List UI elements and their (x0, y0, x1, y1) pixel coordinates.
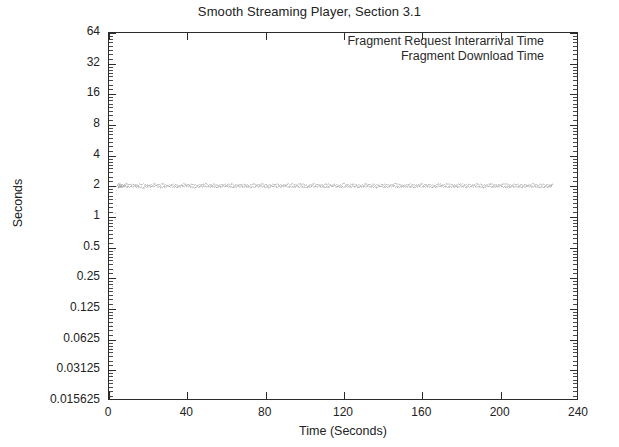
x-axis-tick-label: 200 (480, 405, 520, 419)
y-axis-minor-tick (573, 111, 577, 112)
y-axis-major-tick (570, 370, 577, 371)
y-axis-minor-tick (573, 50, 577, 51)
y-axis-minor-tick (573, 295, 577, 296)
x-axis-major-tick (501, 33, 502, 40)
legend-item-fragment-request-interarrival-time: Fragment Request Interarrival Time (109, 34, 544, 49)
y-axis-minor-tick (109, 199, 113, 200)
y-axis-minor-tick (109, 299, 113, 300)
y-axis-minor-tick (109, 159, 113, 160)
y-axis-minor-tick (573, 120, 577, 121)
y-axis-minor-tick (573, 162, 577, 163)
y-axis-minor-tick (573, 151, 577, 152)
y-axis-minor-tick (573, 97, 577, 98)
y-axis-minor-tick (573, 212, 577, 213)
x-axis-tick-label: 160 (401, 405, 441, 419)
y-axis-minor-tick (573, 318, 577, 319)
legend-item-fragment-download-time: Fragment Download Time (109, 49, 544, 64)
y-axis-minor-tick (573, 54, 577, 55)
y-axis-major-tick (570, 125, 577, 126)
y-axis-major-tick (109, 94, 116, 95)
y-axis-minor-tick (109, 318, 113, 319)
y-axis-minor-tick (109, 288, 113, 289)
y-axis-minor-tick (573, 264, 577, 265)
x-axis-major-tick (109, 392, 110, 399)
y-axis-minor-tick (573, 322, 577, 323)
y-axis-minor-tick (109, 134, 113, 135)
y-axis-minor-tick (109, 226, 113, 227)
y-axis-minor-tick (109, 165, 113, 166)
y-axis-minor-tick (109, 196, 113, 197)
data-point (250, 185, 251, 186)
y-axis-minor-tick (109, 97, 113, 98)
data-point (270, 187, 271, 188)
y-axis-minor-tick (573, 356, 577, 357)
y-axis-minor-tick (109, 54, 113, 55)
chart-title: Smooth Streaming Player, Section 3.1 (0, 4, 619, 19)
y-axis-minor-tick (573, 199, 577, 200)
y-axis-minor-tick (573, 243, 577, 244)
y-axis-minor-tick (573, 192, 577, 193)
y-axis-minor-tick (573, 172, 577, 173)
y-axis-minor-tick (573, 281, 577, 282)
x-axis-tick-label: 40 (166, 405, 206, 419)
data-point (116, 205, 117, 206)
y-axis-minor-tick (573, 89, 577, 90)
y-axis-minor-tick (109, 304, 113, 305)
y-axis-minor-tick (573, 299, 577, 300)
y-axis-minor-tick (109, 138, 113, 139)
y-axis-minor-tick (109, 387, 113, 388)
y-axis-minor-tick (109, 50, 113, 51)
y-axis-minor-tick (573, 115, 577, 116)
y-axis-tick-label: 8 (4, 116, 100, 130)
y-axis-minor-tick (573, 203, 577, 204)
data-point (114, 228, 115, 229)
y-axis-minor-tick (109, 322, 113, 323)
y-axis-minor-tick (109, 80, 113, 81)
y-axis-minor-tick (573, 361, 577, 362)
y-axis-major-tick (570, 217, 577, 218)
y-axis-major-tick (109, 186, 116, 187)
y-axis-minor-tick (109, 234, 113, 235)
y-axis-minor-tick (573, 168, 577, 169)
y-axis-minor-tick (109, 295, 113, 296)
x-axis-major-tick (187, 392, 188, 399)
y-axis-major-tick (109, 370, 116, 371)
y-axis-minor-tick (109, 212, 113, 213)
y-axis-major-tick (570, 309, 577, 310)
y-axis-minor-tick (573, 251, 577, 252)
y-axis-minor-tick (109, 104, 113, 105)
x-axis-title: Time (Seconds) (108, 424, 578, 438)
data-point (116, 190, 117, 191)
y-axis-minor-tick (109, 177, 113, 178)
y-axis-tick-label: 16 (4, 85, 100, 99)
data-point (111, 354, 112, 355)
y-axis-minor-tick (109, 284, 113, 285)
y-axis-minor-tick (573, 352, 577, 353)
y-axis-minor-tick (109, 70, 113, 71)
y-axis-major-tick (109, 33, 116, 34)
y-axis-minor-tick (573, 196, 577, 197)
y-axis-minor-tick (109, 162, 113, 163)
y-axis-minor-tick (573, 365, 577, 366)
y-axis-minor-tick (109, 330, 113, 331)
y-axis-minor-tick (109, 251, 113, 252)
y-axis-minor-tick (573, 46, 577, 47)
x-axis-major-tick (344, 392, 345, 399)
y-axis-minor-tick (573, 107, 577, 108)
data-point (114, 233, 115, 234)
y-axis-minor-tick (573, 138, 577, 139)
y-axis-minor-tick (573, 376, 577, 377)
y-axis-minor-tick (573, 134, 577, 135)
x-axis-major-tick (266, 33, 267, 40)
y-axis-minor-tick (573, 59, 577, 60)
chart-figure: Smooth Streaming Player, Section 3.1 Fra… (0, 0, 619, 447)
x-axis-major-tick (422, 392, 423, 399)
y-axis-minor-tick (109, 254, 113, 255)
y-axis-minor-tick (109, 326, 113, 327)
y-axis-minor-tick (573, 234, 577, 235)
y-axis-minor-tick (109, 203, 113, 204)
y-axis-minor-tick (573, 304, 577, 305)
y-axis-minor-tick (109, 291, 113, 292)
y-axis-minor-tick (109, 356, 113, 357)
y-axis-major-tick (109, 278, 116, 279)
